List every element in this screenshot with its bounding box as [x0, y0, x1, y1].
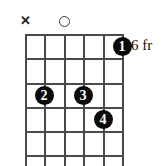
- guitar-chord-diagram: ✕ 1 2 3 4 6 fr: [0, 0, 165, 166]
- string-line-5: [103, 34, 105, 166]
- string-line-1: [25, 34, 27, 166]
- fret-line-3: [25, 107, 123, 109]
- fret-line-0: [25, 34, 123, 36]
- fret-position-label: 6 fr: [131, 37, 152, 54]
- finger-dot-4: 4: [94, 110, 113, 129]
- open-string-marker-icon: [59, 16, 70, 27]
- fret-line-5: [25, 155, 123, 157]
- finger-dot-2: 2: [35, 86, 54, 105]
- finger-dot-1: 1: [113, 37, 132, 56]
- string-line-3: [64, 34, 66, 166]
- muted-string-marker-icon: ✕: [18, 14, 32, 28]
- fret-line-1: [25, 58, 123, 60]
- fret-line-4: [25, 131, 123, 133]
- finger-dot-3: 3: [74, 86, 93, 105]
- fret-line-2: [25, 83, 123, 85]
